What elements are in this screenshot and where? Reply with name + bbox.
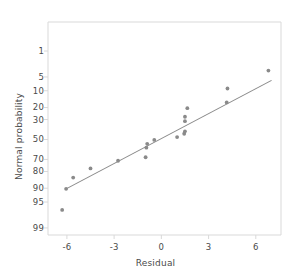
x-tick-label: 6 bbox=[242, 243, 270, 252]
data-point bbox=[145, 142, 149, 146]
x-tick-label: 0 bbox=[147, 243, 175, 252]
y-tick-label: 1 bbox=[20, 47, 44, 56]
data-point bbox=[60, 208, 64, 212]
data-point bbox=[225, 101, 229, 105]
data-point bbox=[185, 106, 189, 110]
data-point bbox=[116, 159, 120, 163]
x-axis-title: Residual bbox=[6, 258, 299, 268]
data-point bbox=[183, 115, 187, 119]
y-tick-label: 5 bbox=[20, 73, 44, 82]
reference-fit-line bbox=[66, 80, 271, 188]
data-point bbox=[183, 119, 187, 123]
data-point bbox=[152, 138, 156, 142]
data-point bbox=[267, 69, 271, 73]
x-tick-label: -3 bbox=[100, 243, 128, 252]
y-tick-label: 99 bbox=[20, 224, 44, 233]
data-point bbox=[144, 146, 148, 150]
y-tick-label: 95 bbox=[20, 198, 44, 207]
data-point bbox=[175, 135, 179, 139]
normal-probability-plot: 99959080705030201051 -6-3036 Normal prob… bbox=[0, 0, 299, 277]
data-point bbox=[226, 87, 230, 91]
y-axis-title: Normal probability bbox=[14, 93, 24, 180]
data-point-group bbox=[60, 69, 270, 212]
data-point bbox=[71, 176, 75, 180]
data-point bbox=[64, 187, 68, 191]
y-tick-label: 90 bbox=[20, 184, 44, 193]
x-tick-label: 3 bbox=[195, 243, 223, 252]
x-tick-label: -6 bbox=[53, 243, 81, 252]
data-point bbox=[89, 167, 93, 171]
data-point bbox=[183, 129, 187, 133]
plot-frame bbox=[48, 22, 281, 235]
data-point bbox=[144, 155, 148, 159]
plot-canvas bbox=[0, 0, 299, 277]
